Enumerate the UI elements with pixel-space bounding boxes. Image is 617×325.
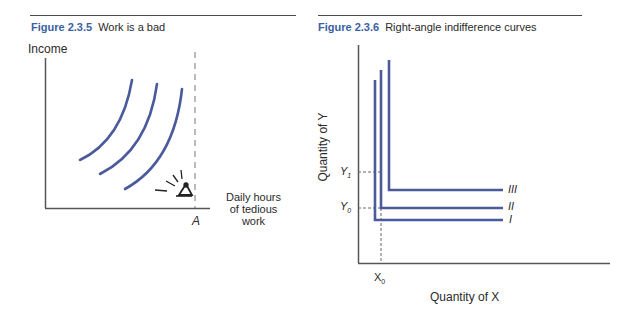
work-bad-plot	[0, 0, 310, 325]
curve-label-i: I	[509, 213, 512, 225]
x-axis-label: Daily hours of tedious work	[226, 191, 281, 227]
indifference-curve-i	[375, 80, 503, 220]
tick-y0: Y0	[340, 200, 351, 214]
x-axis-label-line-3: work	[226, 215, 281, 227]
x-axis-label: Quantity of X	[430, 290, 499, 304]
indifference-curve-iii	[389, 60, 503, 190]
indifference-curve-ii	[381, 70, 503, 208]
x-axis-label-line-1: Daily hours	[226, 191, 281, 203]
curve-label-ii: II	[508, 200, 514, 212]
tick-y1: Y1	[340, 165, 351, 179]
marker-label-a: A	[192, 214, 200, 228]
curve-label-iii: III	[508, 183, 517, 195]
tick-x0: X0	[374, 271, 385, 285]
x-axis-label-line-2: of tedious	[226, 203, 281, 215]
indifference-curve-1	[80, 80, 132, 160]
figure-right-angle-curves: Figure 2.3.6Right-angle indifference cur…	[310, 0, 617, 325]
figure-work-is-a-bad: Figure 2.3.5Work is a bad Income A Daily…	[0, 0, 310, 325]
right-angle-plot	[310, 0, 617, 325]
explosion-icon	[155, 170, 192, 196]
y-axis-label: Quantity of Y	[316, 112, 330, 181]
